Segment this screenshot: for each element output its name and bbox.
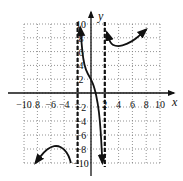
y-tick-label: 8 — [79, 33, 84, 44]
x-tick-label: −10 — [16, 99, 32, 110]
x-tick-label: 8 — [35, 99, 40, 110]
x-tick-label: −6 — [45, 99, 56, 110]
x-tick-label: 8 — [144, 99, 149, 110]
y-tick-label: 2 — [79, 74, 84, 85]
axes — [8, 12, 174, 176]
y-tick-label: −4 — [76, 116, 87, 127]
y-tick-label: −8 — [76, 144, 87, 155]
y-tick-label: 4 — [79, 60, 84, 71]
x-tick-label: 4 — [116, 99, 121, 110]
x-axis-label: x — [171, 95, 178, 109]
y-tick-label: 6 — [79, 47, 84, 58]
y-tick-label: −10 — [73, 158, 89, 169]
y-tick-label: −2 — [76, 102, 87, 113]
y-axis-label: y — [97, 9, 104, 23]
chart: −108−6−4−246810108642−2−4−6−8−10 x y — [0, 0, 183, 181]
x-tick-label: 10 — [155, 99, 165, 110]
curve-left-branch — [35, 146, 71, 163]
y-tick-label: −6 — [76, 130, 87, 141]
x-tick-label: −4 — [59, 99, 70, 110]
x-tick-label: 2 — [102, 99, 107, 110]
y-tick-label: 10 — [76, 19, 86, 30]
x-tick-label: 6 — [130, 99, 135, 110]
